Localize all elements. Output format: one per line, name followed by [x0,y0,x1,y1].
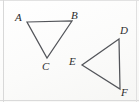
vertex-label-b: B [71,10,78,21]
triangle-def-shape [82,39,120,89]
vertex-label-a: A [15,12,22,23]
vertex-label-d: D [120,25,128,36]
vertex-label-c: C [42,61,49,72]
triangle-abc-shape [27,21,72,58]
geometry-figure: A B C D E F [0,0,139,102]
vertex-label-e: E [69,56,76,67]
vertex-label-f: F [121,87,128,98]
